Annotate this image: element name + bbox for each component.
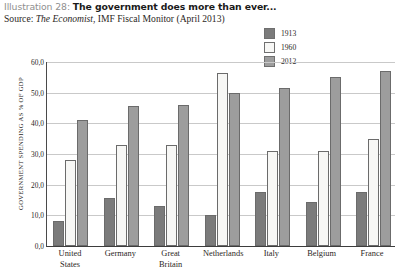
bar-2012 bbox=[380, 71, 391, 246]
legend-swatch-1960 bbox=[264, 42, 275, 53]
plot-area bbox=[46, 62, 395, 247]
legend-label-1960: 1960 bbox=[281, 43, 296, 52]
bar-group bbox=[306, 62, 341, 246]
bar-1960 bbox=[166, 145, 177, 246]
page-title: Illustration 28: The government does mor… bbox=[4, 1, 397, 12]
y-axis-ticks: 0,010,020,030,040,050,060,0 bbox=[18, 62, 44, 246]
y-tick-label: 40,0 bbox=[31, 119, 44, 128]
source-line: Source: The Economist, IMF Fiscal Monito… bbox=[4, 13, 397, 25]
x-axis-label: France bbox=[354, 249, 390, 270]
x-axis-label: UnitedStates bbox=[52, 249, 88, 270]
bar-group bbox=[205, 62, 240, 246]
bar-1913 bbox=[356, 192, 367, 246]
bar-1960 bbox=[267, 151, 278, 246]
y-tick-label: 60,0 bbox=[31, 58, 44, 67]
bar-1913 bbox=[255, 192, 266, 246]
bar-group bbox=[154, 62, 189, 246]
bar-group bbox=[53, 62, 88, 246]
bar-1960 bbox=[217, 73, 228, 246]
bar-2012 bbox=[178, 105, 189, 246]
bar-2012 bbox=[330, 77, 341, 246]
x-axis-label: Netherlands bbox=[203, 249, 239, 270]
bar-2012 bbox=[128, 106, 139, 246]
legend-item-1913: 1913 bbox=[264, 26, 334, 40]
bar-group bbox=[255, 62, 290, 246]
bar-group bbox=[104, 62, 139, 246]
y-tick-label: 50,0 bbox=[31, 88, 44, 97]
bar-1913 bbox=[104, 198, 115, 246]
bar-1960 bbox=[368, 139, 379, 246]
bar-groups bbox=[47, 62, 395, 246]
bar-1913 bbox=[154, 206, 165, 246]
bar-1913 bbox=[205, 215, 216, 246]
bar-group bbox=[356, 62, 391, 246]
legend-item-1960: 1960 bbox=[264, 40, 334, 54]
x-axis-labels: UnitedStatesGermanyGreatBritainNetherlan… bbox=[46, 249, 394, 270]
legend-label-1913: 1913 bbox=[281, 29, 296, 38]
bar-1960 bbox=[65, 160, 76, 246]
y-tick-label: 30,0 bbox=[31, 150, 44, 159]
x-axis-label-line2: Britain bbox=[153, 260, 189, 271]
x-axis-label-line2: States bbox=[52, 260, 88, 271]
bar-1913 bbox=[53, 221, 64, 246]
y-tick-label: 0,0 bbox=[35, 242, 44, 251]
bar-2012 bbox=[279, 88, 290, 246]
x-axis-label: GreatBritain bbox=[153, 249, 189, 270]
x-axis-label: Belgium bbox=[304, 249, 340, 270]
bar-1960 bbox=[116, 145, 127, 246]
source-rest: , IMF Fiscal Monitor (April 2013) bbox=[93, 13, 225, 24]
illustration-title: The government does more than ever... bbox=[73, 1, 277, 12]
source-prefix: Source: bbox=[4, 13, 36, 24]
bar-2012 bbox=[77, 120, 88, 246]
chart-header: Illustration 28: The government does mor… bbox=[4, 1, 397, 25]
bar-chart: GOVERNMENT SPENDING AS % OF GDP 0,010,02… bbox=[0, 62, 401, 276]
bar-1960 bbox=[318, 151, 329, 246]
illustration-number: Illustration 28: bbox=[4, 1, 70, 12]
x-axis-label: Germany bbox=[102, 249, 138, 270]
bar-1913 bbox=[306, 202, 317, 246]
legend-swatch-1913 bbox=[264, 28, 275, 39]
bar-2012 bbox=[229, 93, 240, 246]
x-axis-label: Italy bbox=[253, 249, 289, 270]
y-tick-label: 10,0 bbox=[31, 211, 44, 220]
y-tick-label: 20,0 bbox=[31, 180, 44, 189]
source-publication: The Economist bbox=[36, 13, 93, 24]
